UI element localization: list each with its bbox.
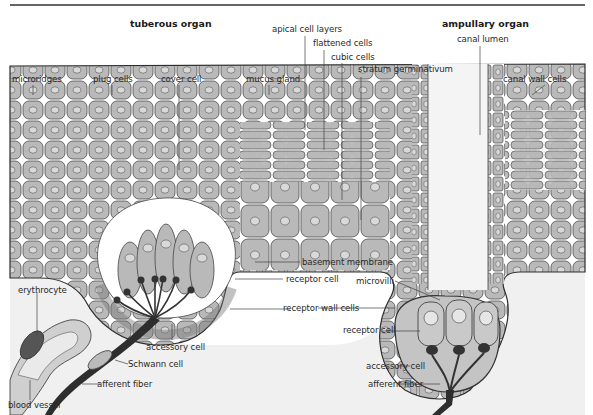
label-receptor-cell-ampullary: receptor cell: [343, 325, 395, 335]
label-basement-membrane: basement membrane: [302, 257, 393, 267]
label-cover-cell: cover cell: [161, 74, 201, 84]
label-canal-lumen: canal lumen: [457, 34, 509, 44]
label-microvilli: microvilli: [356, 276, 394, 286]
label-plug-cells: plug cells: [93, 74, 133, 84]
label-afferent-fiber-ampullary: afferent fiber: [368, 379, 423, 389]
electroreceptor-diagram: tuberous organ ampullary organ microridg…: [0, 0, 593, 415]
label-stratum-germinativum: stratum germinativum: [358, 64, 453, 74]
label-microridges: microridges: [12, 74, 62, 84]
label-receptor-cell-tuberous: receptor cell: [286, 274, 338, 284]
label-cubic-cells: cubic cells: [331, 52, 375, 62]
diagram-artwork: [0, 0, 593, 415]
label-apical-cell-layers: apical cell layers: [272, 24, 342, 34]
label-flattened-cells: flattened cells: [313, 38, 372, 48]
ampullary-organ-title: ampullary organ: [442, 18, 529, 29]
label-erythrocyte: erythrocyte: [18, 285, 67, 295]
label-canal-wall-cells: canal wall cells: [503, 74, 566, 84]
label-mucus-gland: mucus gland: [246, 74, 300, 84]
label-receptor-wall-cells: receptor wall cells: [283, 303, 359, 313]
tuberous-organ-title: tuberous organ: [130, 18, 212, 29]
label-blood-vessel: blood vessel: [8, 400, 60, 410]
label-accessory-cell-tuberous: accessory cell: [146, 342, 205, 352]
label-schwann-cell: Schwann cell: [128, 359, 183, 369]
label-accessory-cell-ampullary: accessory cell: [366, 361, 425, 371]
label-afferent-fiber-tuberous: afferent fiber: [97, 379, 152, 389]
